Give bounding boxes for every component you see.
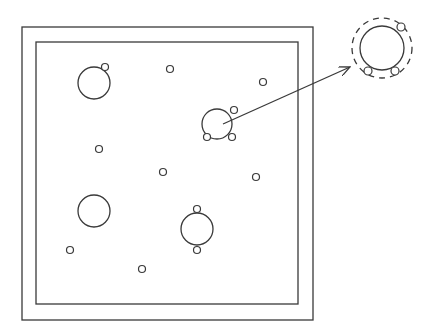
satellite-circle <box>204 134 211 141</box>
small-circle <box>260 79 267 86</box>
detail-view <box>352 18 412 78</box>
diagram-canvas <box>0 0 431 334</box>
small-circles-group <box>67 66 267 273</box>
small-circle <box>253 174 260 181</box>
satellite-circle <box>194 247 201 254</box>
large-circle-top-left <box>78 67 110 99</box>
small-circle <box>167 66 174 73</box>
frame-inner-border <box>36 42 298 304</box>
satellite-circle <box>194 206 201 213</box>
small-circle <box>67 247 74 254</box>
detail-large-circle <box>360 26 404 70</box>
small-circle <box>96 146 103 153</box>
large-circle-bottom-left <box>78 195 110 227</box>
satellite-circle <box>102 64 109 71</box>
small-circle <box>139 266 146 273</box>
detail-satellite-circle <box>391 67 399 75</box>
detail-satellite-circle <box>397 23 405 31</box>
magnify-arrow <box>223 67 350 124</box>
small-circle <box>160 169 167 176</box>
large-circle-bottom-center <box>181 213 213 245</box>
satellite-circle <box>229 134 236 141</box>
arrow-line <box>223 67 350 124</box>
large-circles-group <box>78 64 238 254</box>
satellite-circle <box>231 107 238 114</box>
detail-satellite-circle <box>364 67 372 75</box>
